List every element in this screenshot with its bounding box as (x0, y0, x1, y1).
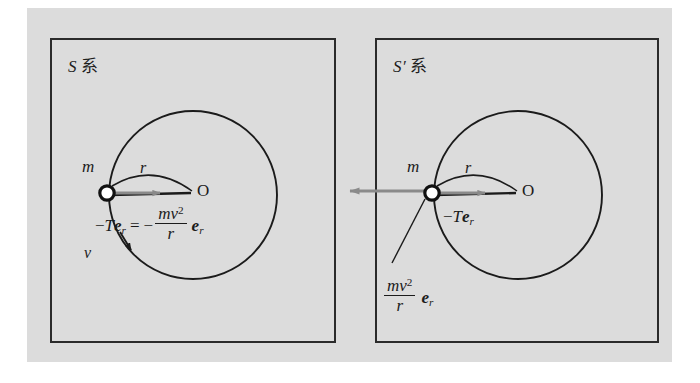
panel-sprime-title: S′系 (393, 52, 428, 77)
mass-label-s: m (82, 158, 94, 175)
eq-lhs-minus: − (95, 216, 105, 235)
eq-fraction-numerator: mv2 (155, 205, 186, 224)
origin-label-s: O (197, 182, 209, 199)
centrifugal-label-sprime: mv2 r er (382, 277, 433, 314)
eq-lhs-e: e (114, 216, 122, 235)
panel-frame-s (50, 38, 336, 343)
eq-lhs-T: T (105, 216, 114, 235)
panel-s-title: S系 (68, 52, 99, 77)
tension-e-subscript: r (470, 215, 474, 227)
tension-e: e (462, 207, 470, 226)
velocity-label-s: v (84, 245, 91, 261)
eq-num-exponent: 2 (178, 204, 184, 216)
centrifugal-e: e (421, 288, 429, 307)
panel-s-frame-suffix: 系 (81, 56, 99, 76)
centrifugal-denominator: r (384, 296, 415, 314)
origin-label-sprime: O (522, 182, 534, 199)
centrifugal-num-exponent: 2 (407, 276, 413, 288)
centrifugal-e-subscript: r (429, 296, 433, 308)
eq-fraction-mv2-over-r: mv2 r (155, 205, 186, 242)
eq-fraction-denominator: r (155, 224, 186, 242)
centrifugal-numerator: mv2 (384, 277, 415, 296)
figure-root: S系 S′系 (0, 0, 700, 383)
mass-label-sprime: m (407, 158, 419, 175)
eq-lhs-e-subscript: r (122, 224, 126, 236)
tension-label-sprime: −Ter (443, 208, 474, 227)
panel-sprime-frame-symbol: S′ (393, 57, 406, 76)
centrifugal-fraction-mv2-over-r: mv2 r (384, 277, 415, 314)
centrifugal-num-v: v (399, 276, 407, 295)
centrifugal-num-m: m (387, 276, 399, 295)
eq-num-v: v (170, 204, 178, 223)
radius-label-sprime: r (465, 160, 471, 176)
eq-rhs-minus: − (144, 216, 154, 235)
equation-tension-centripetal-s: −Ter=− mv2 r er (95, 205, 204, 242)
panel-s-frame-symbol: S (68, 57, 77, 76)
eq-num-m: m (158, 204, 170, 223)
eq-rhs-e-subscript: r (199, 224, 203, 236)
radius-label-s: r (140, 160, 146, 176)
tension-T: T (453, 207, 462, 226)
eq-equals: = (130, 216, 140, 235)
panel-sprime-frame-suffix: 系 (410, 56, 428, 76)
tension-minus: − (443, 207, 453, 226)
